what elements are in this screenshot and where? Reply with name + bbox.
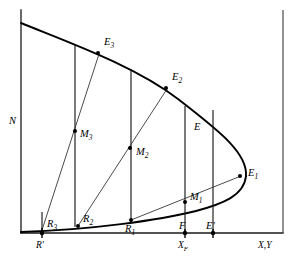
label-m1: M1 <box>189 191 202 205</box>
x-axis-label: X,Y <box>257 240 273 250</box>
label-e2-sub: 2 <box>178 76 182 85</box>
tick-label-r-prime: R' <box>35 240 45 250</box>
point-e3 <box>96 51 100 55</box>
label-m3: M3 <box>79 128 93 142</box>
label-f: F <box>178 220 186 231</box>
label-f-base: F <box>178 220 186 231</box>
y-axis-label: N <box>8 115 17 126</box>
point-f <box>183 231 187 235</box>
diagram-canvas: E3 E2 E1 E M3 M2 M1 R3 R2 R1 F E' N R' X… <box>0 0 292 260</box>
label-m3-sub: 3 <box>88 133 93 142</box>
label-e2: E2 <box>171 71 182 85</box>
label-e-base: E <box>193 121 201 132</box>
tick-label-x-f: XF <box>177 240 189 252</box>
envelope-curve-group <box>21 23 246 232</box>
label-e-prime: E' <box>205 220 215 231</box>
point-r1 <box>129 218 133 222</box>
tie-line-2 <box>78 89 167 226</box>
label-r1: R1 <box>124 223 135 237</box>
vertical-construction-lines <box>42 45 213 233</box>
point-m2 <box>128 146 132 150</box>
label-r2: R2 <box>82 213 93 227</box>
tie-lines-group <box>42 54 241 230</box>
tick-label-x-f-sub: F <box>183 245 189 252</box>
label-e-prime-base: E' <box>205 220 215 231</box>
label-r1-sub: 1 <box>131 228 135 237</box>
point-m3 <box>73 129 77 133</box>
label-e: E <box>193 121 201 132</box>
point-e1 <box>238 174 242 178</box>
label-e3: E3 <box>103 36 114 50</box>
label-r3-sub: 3 <box>52 223 57 232</box>
point-r3-axis <box>40 231 44 235</box>
upper-branch-curve <box>21 23 246 176</box>
point-e2 <box>164 86 168 90</box>
axes-group <box>21 10 283 233</box>
point-e-prime <box>211 231 215 235</box>
enthalpy-concentration-diagram: E3 E2 E1 E M3 M2 M1 R3 R2 R1 F E' N R' X… <box>0 0 292 260</box>
tie-line-3 <box>42 54 99 230</box>
point-r2 <box>76 224 80 228</box>
label-e1-sub: 1 <box>254 172 258 181</box>
point-m1 <box>183 200 187 204</box>
label-e3-sub: 3 <box>109 41 114 50</box>
point-labels-group: E3 E2 E1 E M3 M2 M1 R3 R2 R1 F E' <box>46 36 258 237</box>
label-m1-sub: 1 <box>199 196 203 205</box>
label-m2-sub: 2 <box>145 151 149 160</box>
label-r2-sub: 2 <box>89 218 93 227</box>
label-e1: E1 <box>247 167 258 181</box>
label-m2: M2 <box>135 146 149 160</box>
